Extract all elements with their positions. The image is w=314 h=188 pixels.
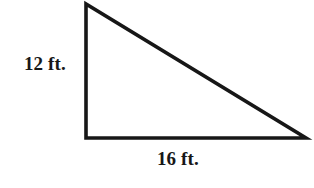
geometry-figure-canvas: 12 ft. 16 ft. (0, 0, 314, 188)
triangle-outline (86, 4, 306, 138)
horizontal-leg-dimension-label: 16 ft. (157, 149, 199, 168)
vertical-leg-dimension-label: 12 ft. (24, 54, 66, 73)
